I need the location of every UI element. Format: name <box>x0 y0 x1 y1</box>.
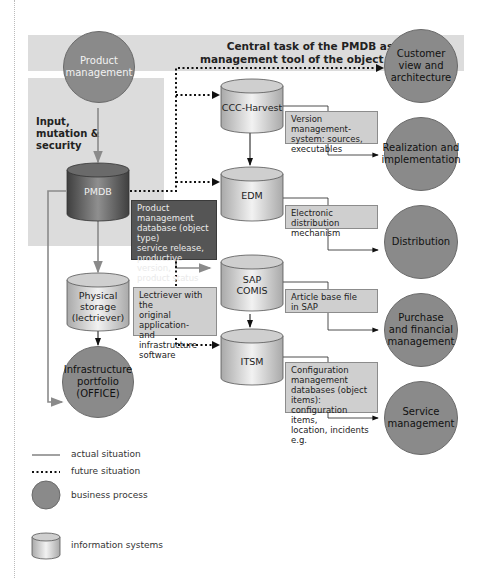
label-line: Physical <box>66 290 130 301</box>
label-line: storage <box>66 301 130 312</box>
note-line: software <box>139 350 211 360</box>
note-line: Product management <box>137 203 211 223</box>
note-line: and infrastructure <box>139 330 211 350</box>
note-pmdb: Product managementdatabase (object type)… <box>131 200 217 260</box>
label-line: view and <box>391 60 452 72</box>
cylinder-label: PMDB <box>66 186 130 197</box>
process-distribution: Distribution <box>384 205 458 279</box>
legend-information-systems-label: information systems <box>71 540 163 550</box>
label-line: Customer <box>391 48 452 60</box>
note-itsm: Configurationmanagementdatabases (object… <box>285 362 378 413</box>
label-line: architecture <box>391 72 452 84</box>
legend: actual situation future situation busine… <box>30 448 230 568</box>
cylinder-physical-storage: Physical storage (lectriever) <box>66 272 130 332</box>
note-line: Electronic distribution <box>291 208 372 228</box>
note-line: mechanism <box>291 228 372 238</box>
label-line: (OFFICE) <box>64 388 132 400</box>
cylinder-edm: EDM <box>220 166 284 222</box>
legend-future-label: future situation <box>71 466 140 476</box>
note-line: Lectriever with the <box>139 290 211 310</box>
process-purchase: Purchaseand financialmanagement <box>384 293 458 367</box>
note-line: productive version, <box>137 253 211 273</box>
note-line: databases (object items): <box>291 385 372 405</box>
label-line: management <box>66 67 133 79</box>
label-line: management <box>388 418 455 430</box>
note-edm: Electronic distributionmechanism <box>285 205 378 229</box>
cylinder-label: SAP COMIS <box>220 274 284 296</box>
note-line: executables <box>291 144 372 154</box>
label-line: Distribution <box>392 236 450 248</box>
label-line: Infrastructure <box>64 364 132 376</box>
note-line: Article base file <box>291 292 372 302</box>
note-line: Configuration <box>291 365 372 375</box>
cylinder-label: EDM <box>220 190 284 201</box>
label-line: SAP <box>220 274 284 285</box>
cylinder-ccc-harvest: CCC-Harvest <box>220 78 284 134</box>
note-line: Version management- <box>291 114 372 134</box>
cylinder-label: CCC-Harvest <box>220 102 284 113</box>
label-line: Realization and <box>381 142 460 154</box>
cylinder-itsm: ITSM <box>220 328 284 386</box>
cylinder-pmdb: PMDB <box>66 162 130 222</box>
note-line: management <box>291 375 372 385</box>
label-line: implementation <box>381 154 460 166</box>
note-sap: Article base filein SAP <box>285 289 378 313</box>
cylinder-label: ITSM <box>220 356 284 367</box>
process-customer-view: Customerview andarchitecture <box>384 29 458 103</box>
note-lectriever: Lectriever with theoriginal application-… <box>133 287 217 336</box>
label-line: management <box>388 336 455 348</box>
note-line: original application- <box>139 310 211 330</box>
note-line: system: sources, <box>291 134 372 144</box>
legend-swatches <box>30 448 70 568</box>
cylinder-sap-comis: SAP COMIS <box>220 254 284 312</box>
note-line: in SAP <box>291 302 372 312</box>
label-line: Product <box>66 55 133 67</box>
cylinder-label: Physical storage (lectriever) <box>66 290 130 323</box>
label-line: (lectriever) <box>66 312 130 323</box>
note-ccc-harvest: Version management-system: sources,execu… <box>285 111 378 144</box>
label-line: portfolio <box>64 376 132 388</box>
label-line: Purchase <box>388 312 455 324</box>
note-line: database (object type) <box>137 223 211 243</box>
note-line: configuration items, <box>291 405 372 425</box>
legend-actual-label: actual situation <box>71 449 141 459</box>
legend-business-process-label: business process <box>71 490 148 500</box>
note-line: service release, <box>137 243 211 253</box>
note-line: location, incidents e.g. <box>291 425 372 445</box>
process-realization: Realization andimplementation <box>384 117 458 191</box>
process-infrastructure: Infrastructureportfolio(OFFICE) <box>62 346 134 418</box>
label-line: and financial <box>388 324 455 336</box>
process-product-management: Productmanagement <box>63 31 135 103</box>
process-service: Servicemanagement <box>384 381 458 455</box>
diagram-canvas: Central task of the PMDB as management t… <box>0 0 485 578</box>
label-line: Service <box>388 406 455 418</box>
label-line: COMIS <box>220 285 284 296</box>
note-line: product status <box>137 273 211 283</box>
